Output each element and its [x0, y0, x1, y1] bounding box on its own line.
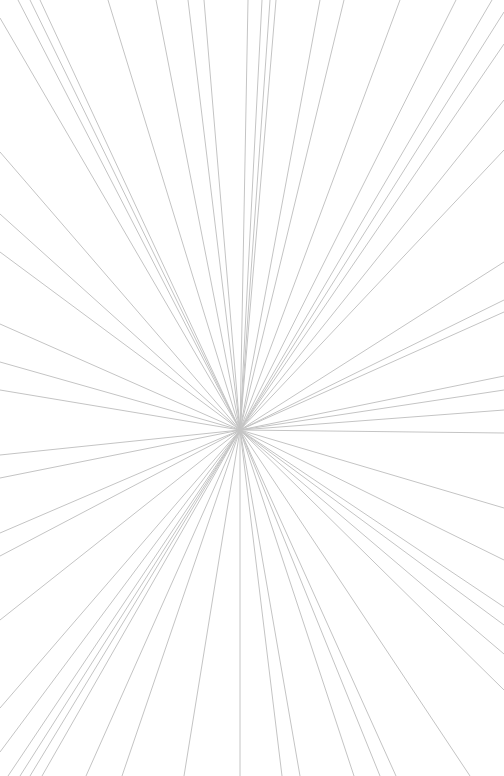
background	[0, 0, 504, 776]
radial-line-burst	[0, 0, 504, 776]
